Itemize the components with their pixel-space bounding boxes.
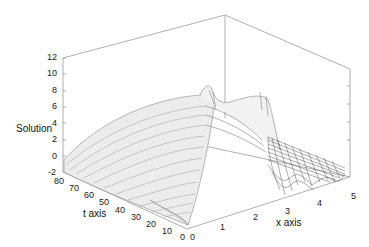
t-tick-30: 30 [131,213,141,222]
x-axis-title: x axis [276,218,302,228]
t-tick-50: 50 [99,198,109,207]
z-tick-0: 0 [52,152,57,161]
z-tick-12: 12 [47,53,57,62]
z-tick-2: 2 [52,135,57,144]
z-tick-6: 6 [52,102,57,111]
t-tick-60: 60 [84,191,94,200]
t-tick-0: 0 [180,233,185,242]
z-tick-4: 4 [52,119,57,128]
z-tick-8: 8 [52,86,57,95]
z-axis-title: Solution [16,124,52,134]
x-tick-4: 4 [317,199,322,208]
surface-ripples [268,137,345,195]
t-tick-10: 10 [162,227,172,236]
z-tick-10: 10 [47,69,57,78]
x-tick-1: 1 [220,223,225,232]
surface-hump [64,95,215,225]
t-tick-70: 70 [69,184,79,193]
x-tick-2: 2 [253,213,258,222]
t-tick-20: 20 [146,220,156,229]
t-axis-title: t axis [83,209,106,219]
x-tick-0: 0 [190,233,195,242]
x-tick-5: 5 [351,192,356,201]
x-tick-3: 3 [285,207,290,216]
t-tick-80: 80 [54,177,64,186]
t-tick-40: 40 [115,206,125,215]
